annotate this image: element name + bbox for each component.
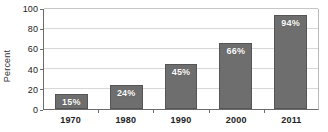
bar-value-label: 66% xyxy=(226,46,245,56)
y-axis-tick-label: 80 xyxy=(28,24,38,34)
x-axis-label-2011: 2011 xyxy=(264,115,319,130)
y-axis-tick-label: 0 xyxy=(33,105,38,115)
bar-2000[interactable]: 66% xyxy=(219,43,252,109)
x-axis-label-1970: 1970 xyxy=(43,115,98,130)
bar-series: 15%24%45%66%94% xyxy=(44,9,318,109)
x-axis-tick-mark xyxy=(209,110,210,113)
y-axis-ticks: 020406080100 xyxy=(0,9,43,110)
x-axis-label-1990: 1990 xyxy=(153,115,208,130)
y-axis-tick: 80 xyxy=(28,24,43,34)
bar-value-label: 15% xyxy=(62,97,81,107)
y-axis-tick: 60 xyxy=(28,44,43,54)
y-axis-tick: 0 xyxy=(33,105,43,115)
y-axis-tick: 100 xyxy=(23,4,43,14)
y-axis-tick: 40 xyxy=(28,65,43,75)
x-axis-label-1980: 1980 xyxy=(98,115,153,130)
bar-slot: 66% xyxy=(208,9,263,109)
x-axis-tick-mark xyxy=(153,110,154,113)
x-axis-tick-mark xyxy=(264,110,265,113)
y-axis-tick: 20 xyxy=(28,85,43,95)
bar-value-label: 24% xyxy=(117,88,136,98)
bar-slot: 24% xyxy=(99,9,154,109)
x-axis-tick-mark xyxy=(98,110,99,113)
bar-2011[interactable]: 94% xyxy=(274,15,307,109)
x-axis-labels: 19701980199020002011 xyxy=(43,115,319,130)
bar-1980[interactable]: 24% xyxy=(110,85,143,109)
bar-value-label: 45% xyxy=(172,67,191,77)
y-axis-tick-label: 100 xyxy=(23,4,38,14)
bar-slot: 94% xyxy=(263,9,318,109)
y-axis-tick-label: 60 xyxy=(28,44,38,54)
y-axis-tick-label: 20 xyxy=(28,85,38,95)
bar-1970[interactable]: 15% xyxy=(55,94,88,109)
x-axis-ticks xyxy=(43,110,319,114)
bar-slot: 45% xyxy=(154,9,209,109)
y-axis-tick-label: 40 xyxy=(28,65,38,75)
x-axis-label-2000: 2000 xyxy=(209,115,264,130)
bar-value-label: 94% xyxy=(281,18,300,28)
plot-area: 15%24%45%66%94% xyxy=(43,9,319,110)
bar-chart: Percent 020406080100 15%24%45%66%94% 197… xyxy=(0,0,328,132)
bar-slot: 15% xyxy=(44,9,99,109)
bar-1990[interactable]: 45% xyxy=(165,64,198,109)
